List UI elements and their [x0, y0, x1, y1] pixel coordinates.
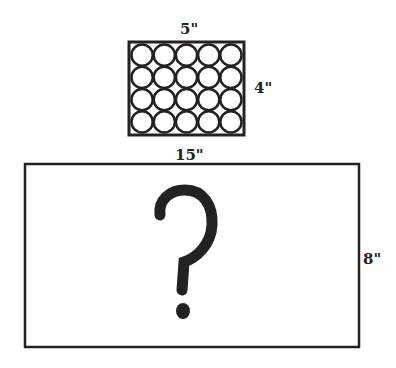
circle — [220, 111, 241, 132]
circle — [220, 89, 241, 110]
circle — [220, 67, 241, 88]
circle — [176, 45, 197, 66]
circle — [154, 89, 175, 110]
small-box — [129, 42, 244, 135]
circle — [176, 89, 197, 110]
circle — [198, 89, 219, 110]
circle — [176, 111, 197, 132]
large-box-width-label: 15" — [175, 146, 204, 164]
circle — [154, 45, 175, 66]
circle — [154, 111, 175, 132]
circle — [176, 67, 197, 88]
circle — [132, 67, 153, 88]
circle — [132, 111, 153, 132]
circle — [220, 45, 241, 66]
large-box-height-label: 8" — [363, 250, 381, 268]
circle-grid — [132, 45, 242, 133]
circle — [132, 45, 153, 66]
diagram-canvas — [0, 0, 396, 368]
circle — [154, 67, 175, 88]
large-box — [25, 164, 359, 347]
circle — [198, 111, 219, 132]
circle — [198, 67, 219, 88]
small-box-width-label: 5" — [180, 20, 198, 38]
circle — [132, 89, 153, 110]
question-dot — [176, 303, 190, 319]
small-box-height-label: 4" — [254, 79, 272, 97]
circle — [198, 45, 219, 66]
question-mark-icon — [160, 190, 212, 290]
